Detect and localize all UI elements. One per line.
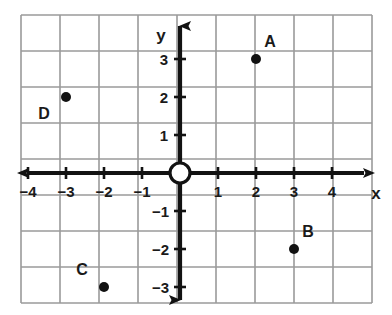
y-tick-label: −3	[152, 279, 169, 296]
x-tick-label: −3	[57, 183, 74, 200]
point-dot-d	[61, 92, 71, 102]
x-axis-label: x	[371, 184, 381, 203]
y-tick-label: −1	[152, 203, 169, 220]
point-label-d: D	[38, 105, 50, 122]
x-tick-label: 1	[214, 183, 222, 200]
x-tick-label: −1	[133, 183, 150, 200]
y-tick-label: 1	[160, 127, 168, 144]
y-axis-label: y	[156, 26, 166, 45]
point-dot-c	[99, 282, 109, 292]
point-label-b: B	[302, 223, 314, 240]
y-tick-label: 2	[160, 89, 168, 106]
coordinate-grid-svg: −4−3−2−11234321−1−2−3 xy ABCD	[0, 0, 392, 315]
origin-marker	[170, 163, 190, 183]
x-tick-label: −4	[19, 183, 37, 200]
point-dot-a	[251, 54, 261, 64]
point-label-c: C	[76, 261, 88, 278]
point-dot-b	[289, 244, 299, 254]
x-tick-label: −2	[95, 183, 112, 200]
x-tick-label: 4	[328, 183, 337, 200]
point-label-a: A	[264, 33, 276, 50]
y-tick-label: 3	[160, 51, 168, 68]
coordinate-plane-figure: −4−3−2−11234321−1−2−3 xy ABCD	[0, 0, 392, 315]
x-tick-label: 2	[252, 183, 260, 200]
x-tick-label: 3	[290, 183, 298, 200]
origin-open-circle	[170, 163, 190, 183]
y-tick-label: −2	[152, 241, 169, 258]
